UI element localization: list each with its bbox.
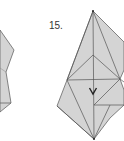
step-15-shape [57, 10, 124, 140]
step-number-label: 15. [49, 20, 63, 31]
origami-diagram: 15. [0, 0, 124, 141]
previous-step-shape [0, 30, 14, 112]
